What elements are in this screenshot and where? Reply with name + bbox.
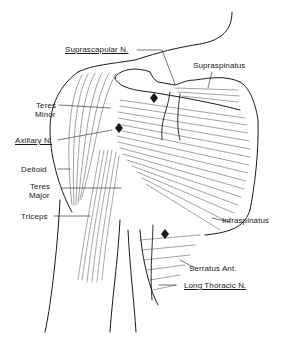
label-supraspinatus: Supraspinatus <box>193 61 245 70</box>
label-serratus-ant: Serratus Ant. <box>189 264 237 273</box>
label-suprascapular-n: Suprascapular N. <box>65 45 128 54</box>
label-teres-major-line1: Teres <box>30 182 50 191</box>
label-teres-minor-line1: Teres <box>36 101 56 110</box>
label-long-thoracic-n: Long Thoracic N. <box>184 281 246 290</box>
anatomy-figure: Suprascapular N. Supraspinatus Teres Min… <box>0 0 289 344</box>
label-teres-major-line2: Major <box>29 191 50 200</box>
label-infraspinatus: Infraspinatus <box>222 216 269 225</box>
label-teres-minor-line2: Minor <box>35 110 56 119</box>
label-triceps: Triceps <box>21 212 48 221</box>
label-axillary-n: Axillary N. <box>15 136 52 145</box>
label-deltoid: Deltoid <box>21 165 47 174</box>
